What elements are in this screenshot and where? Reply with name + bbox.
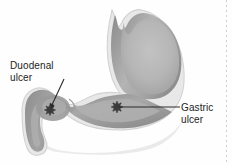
duodenal-ulcer-marker [45,105,55,115]
gastric-ulcer-label-line1: Gastric [181,102,213,114]
duodenal-ulcer-label-line2: ulcer [10,72,54,84]
duodenal-ulcer-label: Duodenal ulcer [10,60,54,84]
gastric-ulcer-label-line2: ulcer [181,114,213,126]
gastric-ulcer-label: Gastric ulcer [181,102,213,126]
duodenal-ulcer-label-line1: Duodenal [10,60,54,72]
